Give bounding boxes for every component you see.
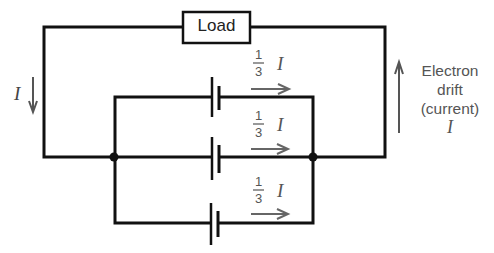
junction-right bbox=[309, 153, 318, 162]
annotation-symbol: I bbox=[410, 118, 490, 137]
load-label: Load bbox=[183, 16, 250, 36]
annotation-line-2: drift bbox=[410, 80, 490, 99]
electron-drift-arrow-icon bbox=[395, 62, 403, 133]
left-current-symbol: I bbox=[14, 83, 20, 105]
middle-branch bbox=[212, 137, 219, 180]
junction-left bbox=[110, 153, 119, 162]
annotation-line-3: (current) bbox=[410, 99, 490, 118]
electron-drift-annotation: Electron drift (current) I bbox=[410, 61, 490, 137]
outer-wires bbox=[44, 27, 385, 157]
annotation-line-1: Electron bbox=[410, 61, 490, 80]
left-current-arrow-icon bbox=[29, 77, 37, 112]
